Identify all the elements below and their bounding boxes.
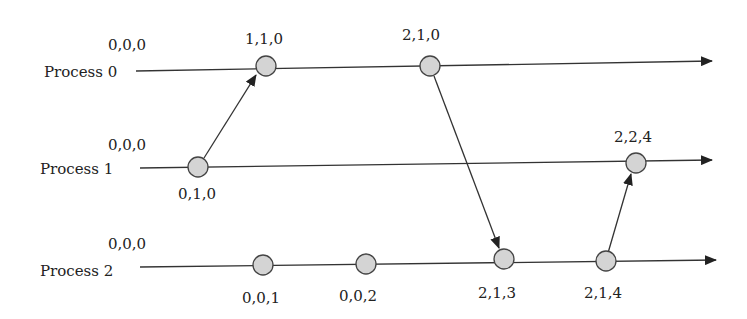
process-1-label: Process 1 — [40, 160, 113, 178]
vector-clock-diagram: Process 0 0,0,0 Process 1 0,0,0 Process … — [0, 0, 747, 319]
event-clock-label: 2,1,4 — [584, 284, 622, 302]
event-clock-label: 2,1,0 — [402, 26, 440, 44]
event-node — [253, 255, 273, 275]
event-clock-label: 0,1,0 — [178, 185, 216, 203]
message-p1-to-p0 — [204, 75, 256, 158]
event-clock-label: 2,1,3 — [478, 284, 516, 302]
event-node — [626, 153, 646, 173]
timeline-process-0: Process 0 0,0,0 — [44, 36, 712, 81]
timeline-process-1: Process 1 0,0,0 — [40, 136, 712, 178]
process-1-initial-clock: 0,0,0 — [108, 136, 146, 154]
event-node — [256, 56, 276, 76]
process-2-arrow — [140, 260, 716, 267]
event-node — [356, 254, 376, 274]
event-clock-label: 2,2,4 — [614, 128, 652, 146]
event-node — [188, 157, 208, 177]
process-2-initial-clock: 0,0,0 — [108, 235, 146, 253]
event-clock-label: 0,0,2 — [339, 287, 377, 305]
message-p0-to-p2 — [434, 76, 499, 248]
event-clock-label: 1,1,0 — [245, 30, 283, 48]
event-node — [494, 249, 514, 269]
event-clock-label: 0,0,1 — [242, 289, 280, 307]
process-2-label: Process 2 — [40, 262, 113, 280]
event-node — [420, 56, 440, 76]
process-0-label: Process 0 — [44, 63, 117, 81]
process-0-initial-clock: 0,0,0 — [108, 36, 146, 54]
message-p2-to-p1 — [608, 174, 631, 253]
event-node — [596, 251, 616, 271]
